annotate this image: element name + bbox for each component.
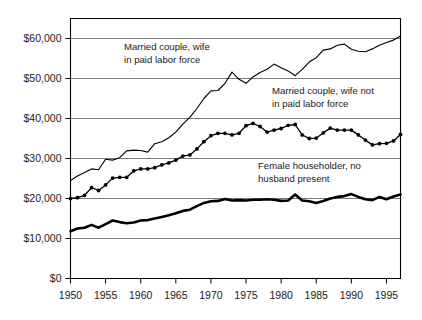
series-data-point bbox=[195, 147, 199, 151]
y-axis-tick-label: $50,000 bbox=[24, 72, 62, 84]
line-chart-figure: $0$10,000$20,000$30,000$40,000$50,000$60… bbox=[0, 0, 422, 320]
series-data-point bbox=[328, 126, 332, 130]
series-data-point bbox=[237, 131, 241, 135]
series-data-point bbox=[97, 189, 101, 193]
series-data-point bbox=[258, 125, 262, 129]
series-data-point bbox=[399, 133, 403, 137]
series-data-point bbox=[132, 169, 136, 173]
x-axis-tick-label: 1970 bbox=[199, 289, 223, 301]
series-data-point bbox=[216, 131, 220, 135]
annotation-line-2: in paid labor force bbox=[272, 98, 348, 109]
x-axis-tick-label: 1955 bbox=[94, 289, 118, 301]
series-data-point bbox=[104, 183, 108, 187]
series-data-point bbox=[160, 163, 164, 167]
series-data-point bbox=[230, 133, 234, 137]
y-axis-tick-label: $60,000 bbox=[24, 32, 62, 44]
x-axis-tick-label: 1990 bbox=[340, 289, 364, 301]
series-data-point bbox=[188, 153, 192, 157]
series-data-point bbox=[139, 167, 143, 171]
series-data-point bbox=[300, 133, 304, 137]
x-axis-tick-label: 1985 bbox=[305, 289, 329, 301]
series-data-point bbox=[385, 141, 389, 145]
series-data-point bbox=[342, 128, 346, 132]
series-data-point bbox=[223, 131, 227, 135]
y-axis-tick-label: $30,000 bbox=[24, 152, 62, 164]
annotation-line-2: husband present bbox=[258, 173, 330, 184]
x-axis-tick-label: 1950 bbox=[59, 289, 83, 301]
series-data-point bbox=[167, 161, 171, 165]
series-data-point bbox=[174, 158, 178, 162]
x-axis-tick-label: 1980 bbox=[269, 289, 293, 301]
series-data-point bbox=[392, 139, 396, 143]
series-data-point bbox=[363, 138, 367, 142]
series-data-point bbox=[181, 154, 185, 158]
y-axis-tick-label: $10,000 bbox=[24, 232, 62, 244]
y-axis-tick-label: $20,000 bbox=[24, 192, 62, 204]
series-data-point bbox=[371, 143, 375, 147]
annotation-line-2: in paid labor force bbox=[124, 54, 200, 65]
annotation-line-1: Married couple, wife bbox=[124, 41, 210, 52]
series-data-point bbox=[314, 136, 318, 140]
series-data-point bbox=[307, 137, 311, 141]
series-data-point bbox=[146, 167, 150, 171]
series-data-point bbox=[321, 131, 325, 135]
series-data-point bbox=[265, 130, 269, 134]
series-data-point bbox=[335, 128, 339, 132]
series-data-point bbox=[356, 133, 360, 137]
series-data-point bbox=[286, 123, 290, 127]
y-axis-tick-label: $0 bbox=[50, 272, 62, 284]
x-axis-tick-label: 1960 bbox=[129, 289, 153, 301]
x-axis-tick-label: 1995 bbox=[375, 289, 399, 301]
series-data-point bbox=[202, 140, 206, 144]
series-data-point bbox=[76, 196, 80, 200]
series-data-point bbox=[90, 186, 94, 190]
series-data-point bbox=[209, 134, 213, 138]
series-data-point bbox=[69, 197, 73, 201]
chart-canvas: $0$10,000$20,000$30,000$40,000$50,000$60… bbox=[0, 0, 422, 320]
series-data-point bbox=[378, 142, 382, 146]
series-data-point bbox=[272, 128, 276, 132]
annotation-line-1: Female householder, no bbox=[258, 160, 361, 171]
series-data-point bbox=[153, 166, 157, 170]
annotation-line-1: Married couple, wife not bbox=[272, 85, 374, 96]
series-data-point bbox=[244, 124, 248, 128]
series-data-point bbox=[111, 176, 115, 180]
series-data-point bbox=[349, 128, 353, 132]
x-axis-tick-label: 1975 bbox=[234, 289, 258, 301]
x-axis-tick-label: 1965 bbox=[164, 289, 188, 301]
series-data-point bbox=[293, 123, 297, 127]
y-axis-tick-label: $40,000 bbox=[24, 112, 62, 124]
series-data-point bbox=[83, 193, 87, 197]
series-data-point bbox=[118, 175, 122, 179]
series-data-point bbox=[279, 127, 283, 131]
series-data-point bbox=[125, 175, 129, 179]
series-data-point bbox=[251, 121, 255, 125]
